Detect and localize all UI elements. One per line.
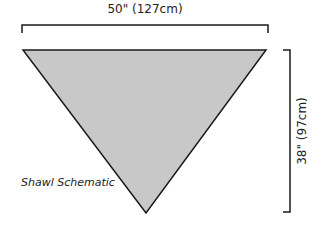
height-dimension-bracket bbox=[283, 50, 290, 212]
diagram-caption: Shawl Schematic bbox=[21, 176, 115, 189]
width-dimension-bracket bbox=[22, 25, 268, 33]
schematic-drawing bbox=[0, 0, 322, 231]
height-label: 38" (97cm) bbox=[295, 97, 309, 165]
width-label: 50" (127cm) bbox=[0, 2, 290, 16]
